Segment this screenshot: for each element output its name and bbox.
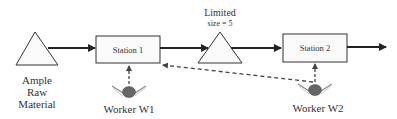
- source-label-line-1: Ample: [22, 74, 52, 86]
- buffer-size-label: size = 5: [208, 19, 233, 28]
- station-1: Station 1: [96, 36, 160, 63]
- buffer-title: Limited: [204, 7, 236, 18]
- source-label-line-3: Material: [18, 98, 55, 110]
- worker-w2-icon: [298, 84, 332, 96]
- worker-w1-icon: [112, 86, 146, 98]
- worker-w2-to-station1-arrow: [163, 65, 313, 82]
- station-1-label: Station 1: [113, 45, 143, 55]
- worker-w2-label: Worker W2: [292, 102, 343, 114]
- source-label-line-2: Raw: [27, 86, 47, 98]
- worker-w1-label: Worker W1: [103, 103, 154, 115]
- station-2-label: Station 2: [300, 43, 330, 53]
- station-2: Station 2: [283, 34, 347, 62]
- flow-diagram: Ample Raw Material Station 1 Limited siz…: [0, 0, 397, 119]
